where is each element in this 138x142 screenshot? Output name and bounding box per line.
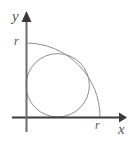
y-axis-label: y	[12, 9, 19, 24]
y-radius-tick-label: r	[14, 35, 19, 47]
inscribed-circle-curve	[26, 54, 89, 117]
arrow-up-icon	[22, 11, 32, 22]
x-radius-tick-label: r	[95, 119, 100, 131]
figure-container: y x r r	[0, 0, 138, 142]
x-axis-label: x	[118, 122, 125, 137]
